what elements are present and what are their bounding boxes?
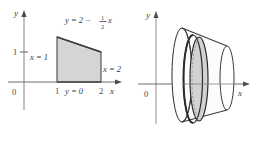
x-axis-label: x [237, 88, 242, 98]
y-tick-label-1: 1 [13, 47, 17, 57]
solid-of-revolution-panel: y x 0 [130, 0, 259, 142]
x-tick-label-2: 2 [99, 86, 103, 96]
x-axis-arrow-icon [115, 79, 122, 84]
origin-label: 0 [144, 89, 148, 99]
curve-label-frac-denominator: 2 [101, 23, 104, 30]
y-axis-arrow-icon [154, 11, 159, 18]
boundary-label-left: x = 1 [29, 52, 48, 62]
figure-root: y x 0 1 1 2 y = 0 x = 1 x = 2 y = 2 − 1 … [0, 0, 259, 142]
plane-region-svg: y x 0 1 1 2 y = 0 x = 1 x = 2 y = 2 − 1 … [0, 0, 130, 142]
y-axis-arrow-icon [21, 10, 26, 17]
origin-label: 0 [12, 87, 16, 97]
representative-disk-face [190, 37, 208, 121]
x-axis-arrow-icon [243, 81, 250, 86]
boundary-label-bottom: y = 0 [64, 86, 84, 96]
y-axis-label: y [145, 10, 150, 20]
x-axis-label: x [109, 86, 114, 96]
curve-label-prefix: y = 2 − [64, 15, 91, 25]
y-axis-label: y [13, 8, 18, 18]
right-ellipse-outline [220, 46, 234, 110]
plane-region-panel: y x 0 1 1 2 y = 0 x = 1 x = 2 y = 2 − 1 … [0, 0, 130, 142]
curve-label-frac-numerator: 1 [101, 14, 104, 21]
x-tick-label-1: 1 [55, 86, 59, 96]
solid-of-revolution-svg: y x 0 [130, 0, 259, 142]
boundary-label-curve: y = 2 − 1 2 x [64, 14, 112, 30]
curve-label-suffix: x [107, 15, 112, 25]
boundary-label-right: x = 2 [102, 64, 122, 74]
